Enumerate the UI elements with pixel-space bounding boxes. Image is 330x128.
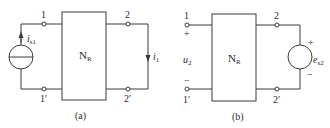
caption-a: (a) bbox=[75, 110, 86, 122]
terminal-label-1p-b: 1′ bbox=[183, 94, 190, 105]
terminal-label-2p-b: 2′ bbox=[273, 94, 280, 105]
source-plus-b: + bbox=[308, 37, 314, 48]
source-label-b: es2 bbox=[313, 54, 324, 67]
terminal-label-1p-a: 1′ bbox=[40, 93, 47, 104]
terminal-label-2-a: 2 bbox=[125, 9, 130, 20]
terminal-2p-b bbox=[275, 87, 279, 91]
voltage-minus-b: − bbox=[184, 75, 190, 86]
voltage-label-b: u2 bbox=[183, 54, 192, 67]
circuit-figure: NR is1 1 1′ 2 2′ i1 (a) NR bbox=[0, 0, 330, 128]
source-minus-b: − bbox=[307, 69, 313, 80]
terminal-1-b bbox=[185, 23, 189, 27]
circuit-b: NR 1 1′ + − u2 + − es2 2 2′ (b) bbox=[183, 10, 324, 123]
wire-b-top-right bbox=[256, 25, 300, 45]
source-label-a: is1 bbox=[27, 33, 37, 46]
circuit-a: NR is1 1 1′ 2 2′ i1 (a) bbox=[9, 9, 160, 122]
terminal-label-2-b: 2 bbox=[274, 10, 279, 21]
terminal-2p-a bbox=[126, 87, 130, 91]
terminal-label-1-a: 1 bbox=[41, 9, 46, 20]
network-label-a: NR bbox=[79, 49, 92, 63]
current-label-a: i1 bbox=[153, 51, 160, 64]
current-source-icon bbox=[9, 45, 33, 69]
arrow-down-icon bbox=[146, 55, 151, 62]
caption-b: (b) bbox=[232, 111, 244, 123]
voltage-plus-b: + bbox=[184, 28, 190, 39]
terminal-label-1-b: 1 bbox=[184, 10, 189, 21]
terminal-2-a bbox=[126, 22, 130, 26]
terminal-1-a bbox=[42, 22, 46, 26]
arrow-up-icon bbox=[19, 31, 24, 43]
wire-a-bottom-left bbox=[21, 69, 62, 89]
terminal-1p-b bbox=[185, 87, 189, 91]
terminal-2-b bbox=[275, 23, 279, 27]
wire-a-right bbox=[106, 24, 148, 89]
voltage-source-icon bbox=[288, 45, 312, 69]
terminal-1p-a bbox=[42, 87, 46, 91]
wire-b-bottom-right bbox=[256, 69, 300, 89]
network-label-b: NR bbox=[228, 52, 241, 66]
terminal-label-2p-a: 2′ bbox=[124, 93, 131, 104]
